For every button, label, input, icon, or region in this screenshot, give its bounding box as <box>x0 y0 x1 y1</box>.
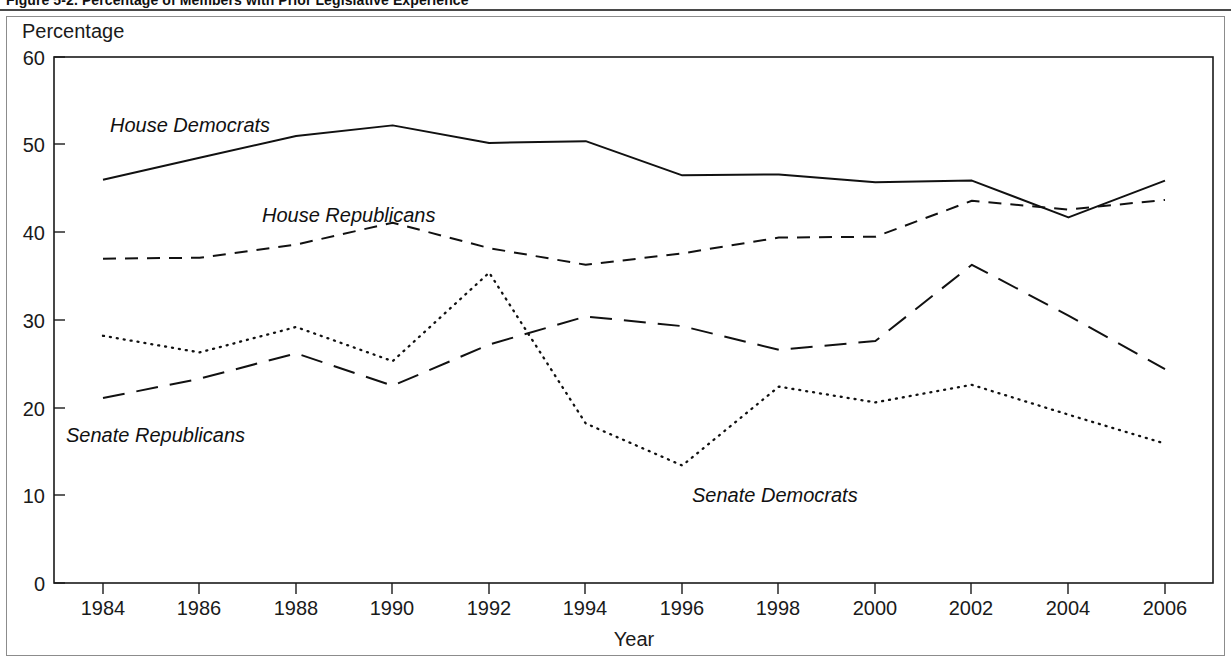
figure-root: Figure 5-2. Percentage of Members with P… <box>0 0 1231 664</box>
figure-caption: Figure 5-2. Percentage of Members with P… <box>6 0 469 8</box>
figure-caption-strip: Figure 5-2. Percentage of Members with P… <box>0 0 1231 9</box>
caption-divider <box>0 9 1231 11</box>
figure-border <box>6 16 1225 656</box>
